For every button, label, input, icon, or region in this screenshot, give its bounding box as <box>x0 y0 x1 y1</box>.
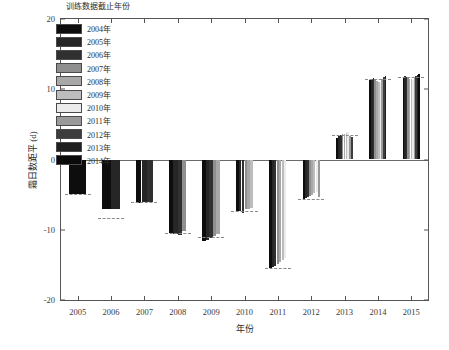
legend-swatch <box>56 129 82 139</box>
legend-item[interactable]: 2008年 <box>56 75 111 88</box>
legend-item[interactable]: 2012年 <box>56 128 111 141</box>
legend-label: 2004年 <box>87 23 111 34</box>
mean-line <box>165 233 191 234</box>
legend-item[interactable]: 2005年 <box>56 35 111 48</box>
y-tick-label: -10 <box>44 225 61 235</box>
legend-label: 2011年 <box>87 115 111 126</box>
x-tick-mark <box>378 296 379 300</box>
x-tick-mark <box>111 19 112 23</box>
mean-line <box>298 199 324 200</box>
legend-item[interactable]: 2010年 <box>56 101 111 114</box>
legend-swatch <box>56 142 82 152</box>
legend-swatch <box>56 155 82 165</box>
x-axis-label: 年份 <box>60 322 429 335</box>
mean-line <box>265 268 291 269</box>
legend-item[interactable]: 2009年 <box>56 88 111 101</box>
x-tick-label: 2009 <box>203 300 220 317</box>
mean-line <box>198 237 224 238</box>
bar <box>351 137 353 159</box>
x-tick-mark <box>111 296 112 300</box>
legend-item[interactable]: 2011年 <box>56 114 111 127</box>
legend-label: 2006年 <box>87 49 111 60</box>
x-tick-mark <box>345 19 346 23</box>
legend-swatch <box>56 76 82 86</box>
bar <box>111 160 120 209</box>
legend-swatch <box>56 37 82 47</box>
x-tick-label: 2014 <box>369 300 386 317</box>
legend-swatch <box>56 90 82 100</box>
x-tick-mark <box>411 296 412 300</box>
legend-swatch <box>56 50 82 60</box>
x-tick-mark <box>144 19 145 23</box>
bar <box>418 74 419 159</box>
mean-line <box>365 79 391 80</box>
legend-label: 2014年 <box>87 155 111 166</box>
y-tick-mark <box>424 19 428 20</box>
legend-swatch <box>56 24 82 34</box>
y-axis-label: 霜日数距平 (d) <box>26 131 39 189</box>
x-tick-mark <box>245 296 246 300</box>
x-tick-mark <box>411 19 412 23</box>
legend-label: 2007年 <box>87 63 111 74</box>
legend-swatch <box>56 63 82 73</box>
y-tick-mark <box>61 19 65 20</box>
x-tick-label: 2015 <box>403 300 420 317</box>
legend-label: 2012年 <box>87 129 111 140</box>
bar <box>250 160 253 208</box>
legend-label: 2010年 <box>87 102 111 113</box>
legend-item[interactable]: 2006年 <box>56 48 111 61</box>
plot-area <box>61 19 428 300</box>
bar <box>147 160 153 202</box>
x-tick-mark <box>211 19 212 23</box>
legend-label: 2009年 <box>87 89 111 100</box>
x-tick-label: 2011 <box>270 300 287 317</box>
legend-swatch <box>56 103 82 113</box>
chart-legend: 2004年2005年2006年2007年2008年2009年2010年2011年… <box>56 22 111 167</box>
x-tick-label: 2013 <box>336 300 353 317</box>
legend-swatch <box>56 116 82 126</box>
mean-line <box>332 135 358 136</box>
x-tick-label: 2006 <box>103 300 120 317</box>
y-tick-mark <box>61 300 65 301</box>
x-tick-mark <box>311 19 312 23</box>
bar <box>216 160 219 234</box>
x-tick-mark <box>311 296 312 300</box>
x-tick-mark <box>278 296 279 300</box>
x-tick-mark <box>211 296 212 300</box>
x-tick-mark <box>345 296 346 300</box>
y-tick-mark <box>424 300 428 301</box>
legend-item[interactable]: 2004年 <box>56 22 111 35</box>
x-tick-label: 2007 <box>136 300 153 317</box>
x-tick-mark <box>78 296 79 300</box>
mean-line <box>231 211 257 212</box>
x-tick-mark <box>178 296 179 300</box>
y-tick-label: -20 <box>44 295 61 305</box>
legend-item[interactable]: 2014年 <box>56 154 111 167</box>
bar <box>318 160 320 197</box>
bar <box>182 160 186 232</box>
legend-label: 2013年 <box>87 142 111 153</box>
y-tick-mark <box>424 159 428 160</box>
chart-root: 霜日数距平 (d) 年份 -20-1001020 200520062007200… <box>0 0 449 350</box>
mean-line <box>98 218 124 219</box>
legend-label: 2005年 <box>87 36 111 47</box>
legend-title: 训练数据截止年份 <box>66 0 130 11</box>
bar <box>136 160 142 204</box>
legend-item[interactable]: 2013年 <box>56 141 111 154</box>
y-tick-mark <box>424 229 428 230</box>
x-tick-label: 2005 <box>69 300 86 317</box>
x-tick-mark <box>178 19 179 23</box>
legend-item[interactable]: 2007年 <box>56 62 111 75</box>
bar <box>284 160 286 258</box>
x-tick-mark <box>378 19 379 23</box>
plot-frame: -20-1001020 2005200620072008200920102011… <box>60 18 429 301</box>
mean-line <box>398 77 424 78</box>
mean-line <box>131 202 157 203</box>
x-tick-mark <box>245 19 246 23</box>
mean-line <box>65 194 91 195</box>
x-tick-mark <box>278 19 279 23</box>
bar <box>385 76 387 160</box>
bar <box>142 160 148 203</box>
y-tick-mark <box>424 89 428 90</box>
legend-label: 2008年 <box>87 76 111 87</box>
